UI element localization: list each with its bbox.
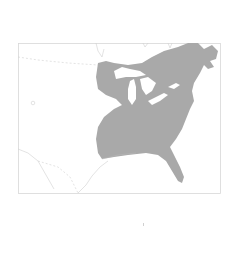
range-map: [18, 43, 221, 194]
footer-mark: [143, 223, 144, 226]
map-svg: [18, 43, 221, 194]
